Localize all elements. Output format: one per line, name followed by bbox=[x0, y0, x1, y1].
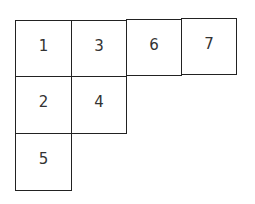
square-5: 5 bbox=[15, 133, 72, 191]
square-6-label: 6 bbox=[149, 36, 159, 54]
square-6: 6 bbox=[126, 19, 182, 76]
square-7: 7 bbox=[181, 18, 237, 75]
square-3-label: 3 bbox=[94, 37, 104, 55]
square-net-diagram: 1 3 6 7 2 4 5 bbox=[0, 0, 255, 204]
square-2-label: 2 bbox=[39, 93, 49, 111]
square-4: 4 bbox=[71, 76, 127, 134]
square-1-label: 1 bbox=[39, 37, 49, 55]
square-4-label: 4 bbox=[94, 93, 104, 111]
square-1: 1 bbox=[15, 20, 72, 77]
square-2: 2 bbox=[15, 76, 72, 134]
square-7-label: 7 bbox=[204, 35, 214, 53]
square-3: 3 bbox=[71, 20, 127, 77]
square-5-label: 5 bbox=[39, 150, 49, 168]
